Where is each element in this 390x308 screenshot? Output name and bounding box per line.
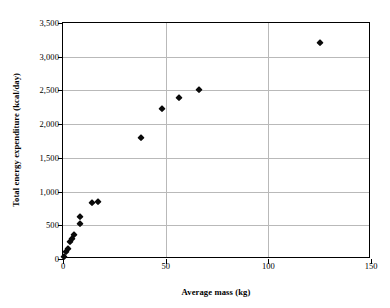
scatter-chart-figure: Total energy expenditure (kcal/day) 0500… — [0, 0, 390, 308]
y-tick-label: 1,500 — [39, 154, 59, 163]
y-tick-label: 0 — [55, 255, 59, 264]
plot-area: 05001,0001,5002,0002,5003,0003,500 05010… — [62, 22, 370, 258]
data-point — [77, 220, 85, 228]
x-tick-label: 50 — [161, 262, 170, 271]
y-tick-label: 3,000 — [39, 52, 59, 61]
gridline-horizontal — [63, 124, 369, 125]
y-tick-label: 500 — [46, 221, 59, 230]
x-tick-label: 0 — [61, 262, 65, 271]
y-tick-label: 3,500 — [39, 19, 59, 28]
data-point — [195, 87, 203, 95]
x-tick-label: 100 — [262, 262, 275, 271]
y-tick-label: 1,000 — [39, 187, 59, 196]
gridline-vertical — [268, 23, 269, 257]
data-point — [94, 198, 102, 206]
y-axis-title: Total energy expenditure (kcal/day) — [9, 22, 23, 258]
gridline-horizontal — [63, 57, 369, 58]
y-tick-label: 2,500 — [39, 86, 59, 95]
gridline-horizontal — [63, 225, 369, 226]
y-tick-label: 2,000 — [39, 120, 59, 129]
y-axis-title-label: Total energy expenditure (kcal/day) — [11, 73, 21, 207]
gridline-horizontal — [63, 90, 369, 91]
data-point — [175, 94, 183, 102]
x-tick-label: 150 — [365, 262, 378, 271]
x-axis-title-label: Average mass (kg) — [182, 287, 251, 297]
gridline-vertical — [166, 23, 167, 257]
gridline-horizontal — [63, 192, 369, 193]
x-axis-title: Average mass (kg) — [62, 287, 370, 297]
data-point — [158, 105, 166, 113]
data-point — [137, 134, 145, 142]
data-point — [316, 39, 324, 47]
gridline-horizontal — [63, 158, 369, 159]
data-point — [77, 213, 85, 221]
